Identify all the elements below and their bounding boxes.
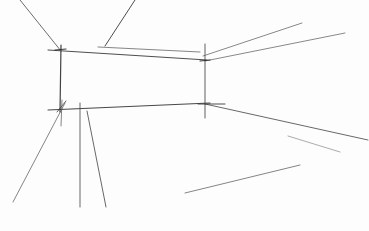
ceiling-right-lower <box>205 33 345 61</box>
short-tick-near-floor <box>61 100 62 126</box>
ceiling-middle-diagonal <box>105 0 135 46</box>
sketch-drawing <box>0 0 369 231</box>
floor-lower-diagonal <box>185 165 300 193</box>
floor-right-short <box>288 136 340 152</box>
ceiling-guide-short <box>98 47 200 52</box>
room-perspective-sketch <box>0 0 369 231</box>
back-wall-left-edge <box>60 45 61 112</box>
back-wall-bottom-edge <box>48 103 210 110</box>
corner-tick-left-top <box>55 49 66 50</box>
ceiling-left-diagonal <box>20 0 61 51</box>
ceiling-right-upper <box>203 23 302 56</box>
floor-right-edge <box>205 104 368 140</box>
floor-left-diagonal <box>13 103 65 202</box>
floor-vertical-2 <box>87 111 106 207</box>
